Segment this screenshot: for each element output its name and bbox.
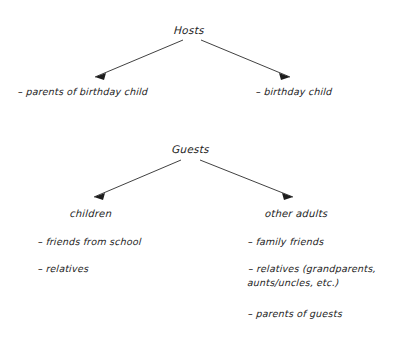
other-adults-item-1: – family friends [248,235,325,248]
hosts-right-arrow [201,40,290,80]
guests-left-arrow [94,160,181,200]
diagram-canvas: Hosts – parents of birthday child – birt… [0,0,399,342]
hosts-right-item: – birthday child [256,85,333,98]
children-item-2: – relatives [38,262,90,275]
node-guests: Guests [172,143,210,156]
branch-label-other-adults: other adults [265,207,329,220]
node-hosts: Hosts [174,24,205,37]
hosts-left-item: – parents of birthday child [18,85,149,98]
hosts-left-arrow [95,40,183,80]
arrow-layer [0,0,399,342]
other-adults-item-2: – relatives (grandparents, aunts/uncles,… [247,262,389,290]
guests-right-arrow [200,160,293,200]
other-adults-item-3: – parents of guests [248,307,344,320]
children-item-1: – friends from school [38,235,142,248]
branch-label-children: children [70,207,113,220]
